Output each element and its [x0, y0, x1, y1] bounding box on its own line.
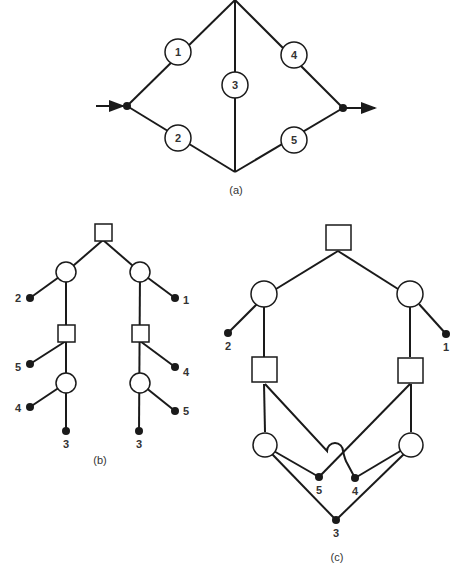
input-node [123, 102, 131, 110]
leaf-node [224, 329, 232, 337]
chance-node [56, 373, 76, 393]
component-1-label: 1 [175, 46, 181, 58]
decision-node [252, 357, 277, 382]
panel-a-caption: (a) [229, 184, 242, 196]
leaf-label: 3 [63, 438, 69, 450]
leaf-node [26, 294, 34, 302]
leaf-label: 5 [316, 484, 322, 496]
panel-c-graph: 2 1 5 4 3 (c) [224, 225, 450, 563]
leaf-node [351, 474, 359, 482]
decision-node [58, 325, 75, 342]
leaf-label: 4 [15, 402, 22, 414]
leaf-label: 4 [183, 366, 190, 378]
leaf-node [442, 330, 450, 338]
panel-a-bridge-network: 1 2 3 4 5 (a) [96, 0, 375, 196]
leaf-label: 4 [352, 485, 359, 497]
leaf-node [315, 473, 323, 481]
leaf-label: 5 [183, 405, 189, 417]
leaf-node [332, 516, 340, 524]
decision-node-root [326, 225, 351, 250]
leaf-label: 1 [183, 294, 189, 306]
component-4-label: 4 [291, 49, 298, 61]
leaf-label: 2 [225, 340, 231, 352]
chance-node [130, 262, 150, 282]
decision-node-root [95, 224, 112, 241]
decision-node [132, 325, 149, 342]
crossing-edge-to-5 [319, 384, 410, 477]
leaf-label: 1 [443, 341, 449, 353]
leaf-node [62, 427, 70, 435]
leaf-node [135, 427, 143, 435]
leaf-label: 2 [15, 292, 21, 304]
leaf-label: 3 [136, 438, 142, 450]
leaf-node [171, 294, 179, 302]
component-2-label: 2 [175, 132, 181, 144]
leaf-node [171, 407, 179, 415]
crossing-edge-to-4 [265, 384, 355, 478]
decision-node [398, 358, 423, 383]
leaf-label: 5 [15, 361, 21, 373]
panel-b-tree: 2 5 4 3 1 4 5 3 (b) [15, 224, 190, 466]
leaf-node [26, 403, 34, 411]
component-3-label: 3 [232, 79, 238, 91]
chance-node [130, 373, 150, 393]
chance-node [397, 281, 423, 307]
output-node [339, 104, 347, 112]
chance-node [253, 433, 277, 457]
panel-c-caption: (c) [331, 551, 344, 563]
reliability-diagram-figure: 1 2 3 4 5 (a) 2 5 4 3 [0, 0, 462, 576]
leaf-label: 3 [333, 527, 339, 539]
component-5-label: 5 [291, 134, 297, 146]
leaf-node [26, 360, 34, 368]
chance-node [56, 262, 76, 282]
chance-node [399, 433, 423, 457]
leaf-node [171, 363, 179, 371]
panel-b-caption: (b) [93, 454, 106, 466]
chance-node [251, 281, 277, 307]
